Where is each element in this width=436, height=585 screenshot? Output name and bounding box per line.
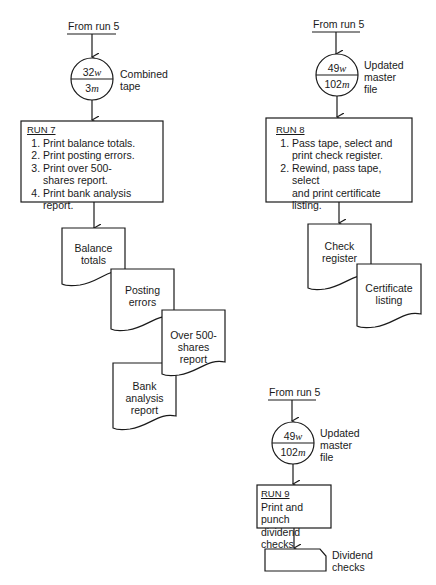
punched-card-dividend-checks bbox=[265, 549, 326, 571]
doc-label-posting-errors: Postingerrors bbox=[111, 284, 174, 308]
source-label-bottom: From run 5 bbox=[269, 386, 320, 398]
run8-step-2: Rewind, pass tape, select and print cert… bbox=[292, 162, 410, 212]
source-label-left: From run 5 bbox=[68, 20, 119, 32]
doc-label-certificate-listing: Certificatelisting bbox=[357, 282, 421, 306]
tape-label-left: Combinedtape bbox=[120, 68, 168, 92]
run9-text: RUN 9 Print and punch dividend checks bbox=[261, 488, 331, 551]
source-label-right: From run 5 bbox=[313, 18, 364, 30]
run7-step-2: Print posting errors. bbox=[43, 149, 161, 162]
run7-text: RUN 7 Print balance totals. Print postin… bbox=[27, 124, 161, 212]
doc-label-balance-totals: Balancetotals bbox=[62, 242, 125, 266]
tape-bottom-value-bottom: 102m bbox=[273, 446, 313, 459]
tape-bottom-value-left: 3m bbox=[74, 82, 110, 95]
doc-label-over-500: Over 500-sharesreport bbox=[162, 329, 225, 365]
doc-label-bank-analysis: Bankanalysisreport bbox=[113, 380, 176, 416]
run9-title: RUN 9 bbox=[261, 488, 331, 501]
run7-step-1: Print balance totals. bbox=[43, 137, 161, 150]
run8-title: RUN 8 bbox=[276, 124, 410, 137]
tape-top-value-right: 49w bbox=[317, 62, 357, 75]
tape-label-bottom: Updatedmasterfile bbox=[320, 427, 360, 463]
tape-top-value-left: 32w bbox=[74, 66, 110, 79]
run8-step-1: Pass tape, select and print check regist… bbox=[292, 137, 410, 162]
tape-top-value-bottom: 49w bbox=[273, 430, 313, 443]
run7-step-3: Print over 500- shares report. bbox=[43, 162, 161, 187]
run7-step-4: Print bank analysis report. bbox=[43, 187, 161, 212]
card-label-dividend-checks: Dividendchecks bbox=[332, 549, 373, 573]
doc-label-check-register: Checkregister bbox=[308, 240, 371, 264]
run7-title: RUN 7 bbox=[27, 124, 161, 137]
tape-bottom-value-right: 102m bbox=[317, 78, 357, 91]
tape-label-right: Updatedmasterfile bbox=[364, 59, 404, 95]
run8-text: RUN 8 Pass tape, select and print check … bbox=[276, 124, 410, 212]
